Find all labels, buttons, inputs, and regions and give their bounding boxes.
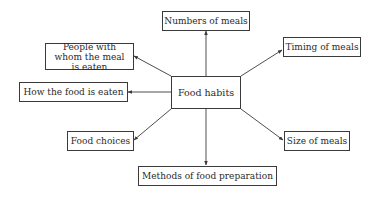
arrow-to-timing xyxy=(241,50,282,76)
node-label: Methods of food preparation xyxy=(142,171,273,181)
diagram-canvas: Numbers of meals Timing of meals People … xyxy=(0,0,374,199)
node-numbers-of-meals: Numbers of meals xyxy=(162,11,250,31)
node-people-with-whom: People with whom the meal is eaten xyxy=(45,43,134,70)
arrow-to-people xyxy=(134,56,171,76)
node-food-choices: Food choices xyxy=(67,131,134,151)
node-label: Food choices xyxy=(71,136,130,146)
node-label: Numbers of meals xyxy=(164,16,247,26)
node-label: Timing of meals xyxy=(285,42,358,52)
center-label: Food habits xyxy=(178,88,234,98)
node-label: Size of meals xyxy=(287,136,347,146)
node-methods-of-food-preparation: Methods of food preparation xyxy=(138,166,277,186)
node-size-of-meals: Size of meals xyxy=(284,131,350,151)
node-food-habits: Food habits xyxy=(171,76,241,109)
node-label: How the food is eaten xyxy=(23,87,123,97)
arrow-to-size xyxy=(241,109,283,140)
node-label: People with whom the meal is eaten xyxy=(50,42,129,72)
node-how-food-is-eaten: How the food is eaten xyxy=(19,82,128,102)
arrow-to-choices xyxy=(134,109,171,140)
node-timing-of-meals: Timing of meals xyxy=(283,37,361,57)
